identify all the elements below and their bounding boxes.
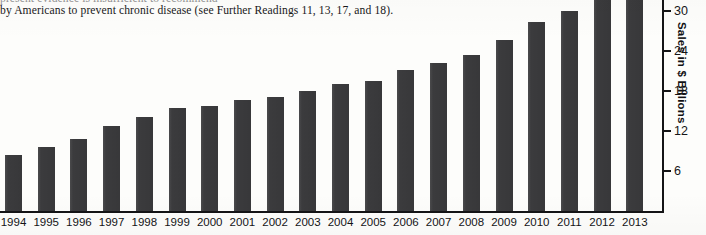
y-tick-12	[664, 130, 671, 132]
bar-2000	[201, 106, 218, 212]
bar-2005	[365, 81, 382, 212]
bar-2007	[430, 63, 447, 212]
x-tick-label-1997: 1997	[99, 216, 125, 228]
x-tick-label-1996: 1996	[66, 216, 92, 228]
bar-2001	[234, 100, 251, 212]
x-tick-label-2005: 2005	[360, 216, 386, 228]
bar-2010	[528, 22, 545, 212]
x-tick-label-1994: 1994	[1, 216, 27, 228]
x-tick-label-2007: 2007	[426, 216, 452, 228]
bar-2011	[561, 11, 578, 212]
bar-2008	[463, 55, 480, 212]
x-tick-label-2001: 2001	[230, 216, 256, 228]
bar-2006	[397, 70, 414, 212]
bar-2012	[594, 0, 611, 212]
y-tick-label-30: 30	[674, 4, 688, 18]
y-tick-label-6: 6	[674, 164, 681, 178]
bar-2004	[332, 84, 349, 212]
bar-1997	[103, 126, 120, 212]
bar-2013	[626, 0, 643, 212]
bar-2002	[267, 97, 284, 212]
y-tick-24	[664, 50, 671, 52]
y-axis-title: Sales in $ Billions	[676, 22, 688, 124]
x-tick-label-1995: 1995	[33, 216, 59, 228]
x-tick-label-2006: 2006	[393, 216, 419, 228]
scanned-page: present evidence is insufficient to reco…	[0, 0, 706, 235]
x-tick-label-2002: 2002	[262, 216, 288, 228]
x-tick-label-2009: 2009	[491, 216, 517, 228]
bar-2009	[496, 40, 513, 212]
bar-1996	[70, 139, 87, 212]
x-tick-label-2011: 2011	[557, 216, 582, 228]
bar-1994	[5, 155, 22, 212]
y-tick-30	[664, 10, 671, 12]
x-tick-label-2000: 2000	[197, 216, 223, 228]
y-tick-label-12: 12	[674, 124, 688, 138]
x-tick-label-1998: 1998	[132, 216, 158, 228]
bar-1999	[169, 108, 186, 212]
x-axis-line	[0, 211, 664, 213]
x-tick-label-2013: 2013	[622, 216, 648, 228]
y-tick-18	[664, 90, 671, 92]
plot-area	[0, 0, 664, 212]
bar-2003	[299, 91, 316, 212]
x-tick-label-2010: 2010	[524, 216, 550, 228]
bar-1995	[38, 147, 55, 212]
x-tick-label-1999: 1999	[164, 216, 190, 228]
x-tick-label-2003: 2003	[295, 216, 321, 228]
y-axis-line	[662, 0, 664, 213]
bar-1998	[136, 117, 153, 212]
y-tick-6	[664, 170, 671, 172]
x-tick-label-2004: 2004	[328, 216, 354, 228]
x-tick-label-2012: 2012	[589, 216, 615, 228]
x-tick-label-2008: 2008	[459, 216, 485, 228]
bar-chart: 612182430 199419951996199719981999200020…	[0, 0, 706, 235]
